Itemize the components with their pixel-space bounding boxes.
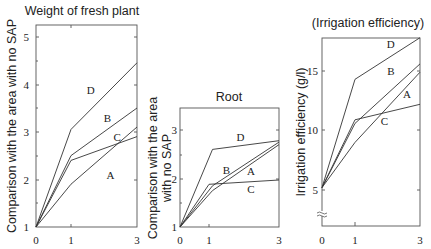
series-label-b: B xyxy=(223,164,230,176)
x-tick-label: 0 xyxy=(33,234,39,246)
x-tick-label: 3 xyxy=(276,234,282,246)
y-tick-label: 1 xyxy=(24,221,30,233)
y-tick-label: 3 xyxy=(24,126,30,138)
x-tick-label: 1 xyxy=(68,234,74,246)
series-label-b: B xyxy=(104,112,111,124)
x-tick-label: 3 xyxy=(417,234,423,246)
series-label-b: B xyxy=(387,65,394,77)
plot-frame xyxy=(322,38,420,226)
chart-root: Root Comparison with the area with no SA… xyxy=(146,90,282,246)
series-line-a xyxy=(180,180,279,227)
series-label-c: C xyxy=(247,183,254,195)
series-line-c xyxy=(36,137,137,227)
y-axis-label: Comparison with the area with no SAP xyxy=(5,19,19,233)
chart-title: (Irrigation efficiency) xyxy=(312,16,424,30)
axis-break-icon xyxy=(317,211,327,217)
y-tick-label: 15 xyxy=(307,65,319,77)
y-tick-label: 2 xyxy=(172,173,178,185)
x-tick-label: 1 xyxy=(352,234,358,246)
series-label-d: D xyxy=(87,84,95,96)
series-lines: ABCD xyxy=(180,131,279,227)
series-label-c: C xyxy=(114,131,121,143)
series-lines: ABCD xyxy=(322,38,420,188)
x-tick-label: 1 xyxy=(206,234,212,246)
figure: Weight of fresh plant Comparison with th… xyxy=(0,0,431,249)
y-axis-label-line1: Comparison with the area xyxy=(146,97,160,239)
y-tick-label: 10 xyxy=(307,124,319,136)
y-tick-label: 3 xyxy=(172,124,178,136)
series-line-a xyxy=(322,104,420,187)
series-label-c: C xyxy=(381,115,388,127)
y-tick-label: 1 xyxy=(172,221,178,233)
x-tick-label: 0 xyxy=(177,234,183,246)
y-tick-label: 4 xyxy=(24,79,30,91)
series-label-a: A xyxy=(107,169,115,181)
chart-title: Root xyxy=(216,90,243,104)
y-tick-label: 5 xyxy=(313,184,319,196)
series-lines: ABCD xyxy=(36,63,137,227)
y-tick-label: 2 xyxy=(24,174,30,186)
series-label-a: A xyxy=(403,88,411,100)
chart-fresh-plant: Weight of fresh plant Comparison with th… xyxy=(5,4,140,246)
series-line-d xyxy=(180,141,279,227)
y-axis-label-line2: with no SAP xyxy=(160,134,174,203)
series-line-c xyxy=(180,145,279,227)
y-axis-label: Irrigation efficiency (g/l) xyxy=(294,68,308,197)
x-tick-label: 3 xyxy=(134,234,140,246)
series-label-d: D xyxy=(387,38,395,50)
series-line-d xyxy=(322,38,420,188)
chart-irrigation-efficiency: (Irrigation efficiency) Irrigation effic… xyxy=(294,16,424,246)
chart-title: Weight of fresh plant xyxy=(25,4,140,18)
x-tick-label: 0 xyxy=(319,234,325,246)
y-tick-label: 5 xyxy=(24,31,30,43)
series-label-d: D xyxy=(237,131,245,143)
